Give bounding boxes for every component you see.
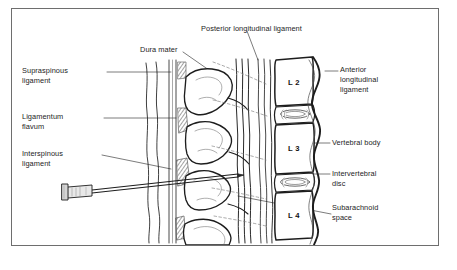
label-posterior-longitudinal-ligament: Posterior longitudinal ligament bbox=[201, 24, 302, 33]
label-anterior-longitudinal-ligament-line3: ligament bbox=[340, 85, 368, 94]
posterior-longitudinal-ligament bbox=[270, 60, 273, 243]
label-ligamentum-flavum-line2: flavum bbox=[22, 122, 44, 131]
label-intervertebral-disc-line1: Intervertebral bbox=[332, 169, 376, 178]
label-interspinous-ligament-line2: ligament bbox=[22, 159, 50, 168]
label-anterior-longitudinal-ligament-line2: longitudinal bbox=[340, 75, 378, 84]
label-intervertebral-disc-line2: disc bbox=[332, 179, 345, 188]
vertebral-level-l4: L 4 bbox=[288, 211, 300, 220]
label-subarachnoid-space-line2: space bbox=[332, 213, 352, 222]
posterior-soft-tissue bbox=[146, 62, 160, 243]
label-supraspinous-ligament-line1: Supraspinous bbox=[22, 66, 68, 75]
dura-mater bbox=[236, 59, 251, 243]
spinous-processes bbox=[184, 69, 233, 245]
vertebral-level-l2: L 2 bbox=[288, 78, 300, 87]
label-ligamentum-flavum-line1: Ligamentum bbox=[22, 112, 63, 121]
supraspinous-ligament-band bbox=[169, 60, 176, 243]
label-vertebral-body: Vertebral body bbox=[332, 138, 381, 147]
label-subarachnoid-space-line1: Subarachnoid bbox=[332, 203, 378, 212]
spine-illustration bbox=[0, 0, 457, 270]
vertebral-level-l3: L 3 bbox=[288, 144, 300, 153]
label-anterior-longitudinal-ligament-line1: Anterior bbox=[340, 65, 366, 74]
subarachnoid-space bbox=[258, 59, 267, 243]
label-interspinous-ligament-line1: Interspinous bbox=[22, 149, 63, 158]
label-supraspinous-ligament-line2: ligament bbox=[22, 76, 50, 85]
label-dura-mater: Dura mater bbox=[140, 45, 178, 54]
figure-root: Posterior longitudinal ligament Dura mat… bbox=[0, 0, 457, 270]
intervertebral-disc-l3-l4 bbox=[275, 173, 315, 192]
